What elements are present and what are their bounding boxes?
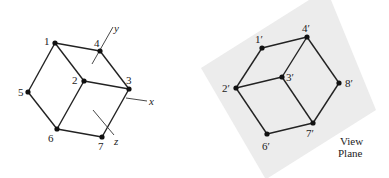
- left-vertex-5: [25, 89, 30, 94]
- right-vertex-7p: [310, 120, 315, 125]
- left-cube-edges: [28, 43, 129, 137]
- x-axis: [126, 98, 147, 101]
- right-vertex-label-2p: 2′: [222, 82, 230, 94]
- left-vertex-label-5: 5: [18, 86, 24, 98]
- right-vertex-label-1p: 1′: [255, 33, 263, 45]
- right-vertex-2p: [233, 85, 238, 90]
- right-vertex-label-4p: 4′: [302, 22, 310, 34]
- projection-diagram: yxz 1234567 1′2′3′4′6′7′8′ View Plane: [0, 0, 389, 178]
- left-vertex-2: [81, 78, 86, 83]
- y-axis-label: y: [113, 22, 119, 34]
- left-edge-2-3: [84, 81, 129, 89]
- view-plane-label-line2: Plane: [338, 147, 363, 159]
- left-vertex-7: [99, 134, 104, 139]
- left-edge-1-5: [28, 43, 55, 92]
- right-vertex-label-3p: 3′: [286, 71, 294, 83]
- left-edge-6-7: [57, 129, 102, 137]
- left-edge-2-6: [57, 81, 84, 129]
- z-axis-label: z: [113, 135, 119, 147]
- right-vertex-6p: [264, 131, 269, 136]
- left-edge-7-3: [102, 89, 129, 137]
- left-edge-4-3: [100, 51, 129, 89]
- right-vertex-3p: [279, 74, 284, 79]
- left-edge-1-2: [55, 43, 84, 81]
- left-vertex-label-1: 1: [44, 35, 50, 47]
- left-vertex-label-7: 7: [98, 140, 104, 152]
- left-vertex-6: [54, 126, 59, 131]
- left-vertex-label-3: 3: [126, 74, 132, 86]
- left-vertex-label-2: 2: [72, 74, 78, 86]
- right-vertex-label-6p: 6′: [262, 140, 270, 152]
- right-vertex-label-8p: 8′: [345, 77, 353, 89]
- view-plane-label-line1: View: [340, 135, 363, 147]
- left-vertex-label-6: 6: [48, 132, 54, 144]
- right-vertex-label-7p: 7′: [306, 127, 314, 139]
- left-edge-5-6: [28, 92, 57, 129]
- left-vertex-1: [52, 40, 57, 45]
- left-vertex-3: [126, 86, 131, 91]
- x-axis-label: x: [148, 95, 154, 107]
- right-vertex-8p: [336, 80, 341, 85]
- left-vertex-label-4: 4: [94, 37, 100, 49]
- left-vertex-4: [97, 48, 102, 53]
- right-vertex-4p: [304, 34, 309, 39]
- right-vertex-1p: [259, 45, 264, 50]
